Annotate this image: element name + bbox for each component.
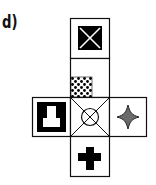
face-upper-middle <box>71 59 110 98</box>
face-center <box>71 98 110 137</box>
face-right <box>110 98 147 137</box>
inverted-t-icon <box>37 102 66 132</box>
x-square-icon <box>78 26 102 50</box>
dotted-pattern-icon <box>71 77 92 97</box>
face-top <box>71 19 110 59</box>
face-bottom <box>71 137 110 177</box>
cube-net <box>0 0 156 185</box>
face-left <box>33 98 71 137</box>
